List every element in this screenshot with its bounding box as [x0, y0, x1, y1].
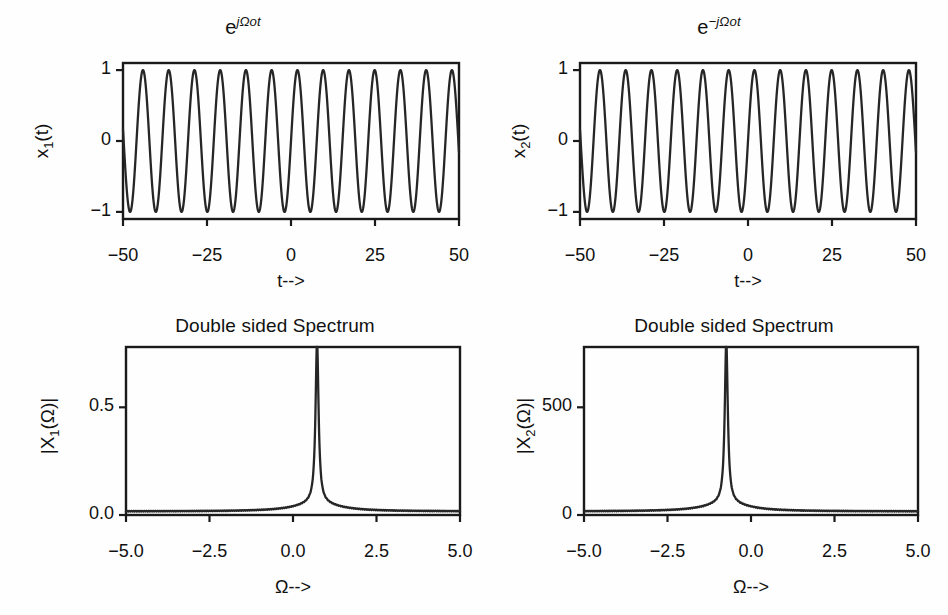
x-tick-label-bottom_right-3: 2.5 — [800, 541, 870, 562]
y-tick-label-bottom_right-1: 500 — [512, 395, 572, 416]
x-tick-label-bottom_left-1: −2.5 — [175, 541, 245, 562]
panel-title-bottom-right: Double sided Spectrum — [589, 315, 879, 337]
panel-bottom-left: Double sided Spectrum |X1(Ω)| Ω--> −5.0−… — [0, 305, 474, 615]
y-tick-label-top_right-2: 1 — [508, 58, 568, 79]
y-axis-label-bottom-left: |X1(Ω)| — [37, 366, 59, 486]
y-tick-label-top_left-0: −1 — [51, 200, 111, 221]
panel-top-left: ejΩot x1(t) t--> −50−2502550−101 — [0, 0, 474, 305]
x-tick-label-top_right-0: −50 — [545, 245, 615, 266]
x-tick-label-top_right-3: 25 — [797, 245, 867, 266]
plot-area-bottom-right — [474, 305, 948, 615]
plot-area-bottom-left — [0, 305, 474, 615]
axes-frame-bottom-left — [126, 347, 460, 515]
y-tick-label-bottom_right-0: 0 — [512, 503, 572, 524]
x-axis-label-bottom-left: Ω--> — [243, 577, 343, 598]
x-tick-label-bottom_left-2: 0.0 — [258, 541, 328, 562]
waveform-trace-top-left — [123, 70, 459, 212]
x-tick-label-top_left-0: −50 — [88, 245, 158, 266]
x-tick-label-top_left-1: −25 — [172, 245, 242, 266]
panel-title-top-left: ejΩot — [168, 16, 318, 39]
panel-bottom-right: Double sided Spectrum |X2(Ω)| Ω--> −5.0−… — [474, 305, 948, 615]
x-axis-label-top-right: t--> — [698, 271, 798, 292]
panel-title-top-right: e−jΩot — [639, 16, 799, 39]
x-tick-label-bottom_right-1: −2.5 — [633, 541, 703, 562]
y-tick-label-top_left-2: 1 — [51, 58, 111, 79]
x-tick-label-top_left-3: 25 — [340, 245, 410, 266]
panel-title-bottom-left: Double sided Spectrum — [130, 315, 420, 337]
y-tick-label-bottom_left-1: 0.5 — [54, 395, 114, 416]
x-tick-label-top_right-1: −25 — [629, 245, 699, 266]
axes-frame-bottom-right — [584, 347, 918, 515]
y-axis-label-bottom-right: |X2(Ω)| — [513, 366, 535, 486]
y-tick-label-bottom_left-0: 0.0 — [54, 503, 114, 524]
x-tick-label-bottom_right-2: 0.0 — [716, 541, 786, 562]
y-tick-label-top_right-1: 0 — [508, 129, 568, 150]
spectrum-trace-bottom-left — [126, 347, 460, 512]
y-tick-label-top_right-0: −1 — [508, 200, 568, 221]
panel-top-right: e−jΩot x2(t) t--> −50−2502550−101 — [474, 0, 948, 305]
spectrum-trace-bottom-right — [584, 347, 918, 512]
x-tick-label-bottom_right-0: −5.0 — [549, 541, 619, 562]
x-axis-label-top-left: t--> — [241, 271, 341, 292]
x-tick-label-top_right-4: 50 — [881, 245, 948, 266]
x-tick-label-top_left-2: 0 — [256, 245, 326, 266]
figure-canvas: ejΩot x1(t) t--> −50−2502550−101 e−jΩot … — [0, 0, 948, 615]
x-tick-label-top_right-2: 0 — [713, 245, 783, 266]
x-tick-label-bottom_right-4: 5.0 — [883, 541, 948, 562]
y-tick-label-top_left-1: 0 — [51, 129, 111, 150]
x-tick-label-bottom_left-0: −5.0 — [91, 541, 161, 562]
y-axis-label-top-left: x1(t) — [31, 91, 53, 191]
x-axis-label-bottom-right: Ω--> — [701, 577, 801, 598]
waveform-trace-top-right — [580, 70, 916, 212]
x-tick-label-bottom_left-3: 2.5 — [342, 541, 412, 562]
